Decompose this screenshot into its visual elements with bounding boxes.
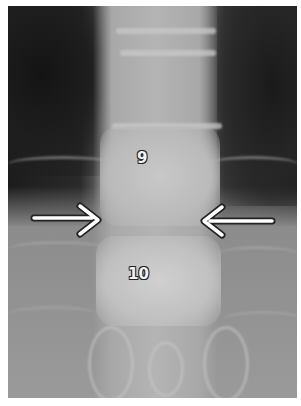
vertebra-label-10: 10 (128, 265, 149, 283)
rib (218, 246, 297, 263)
endplate (116, 28, 216, 34)
endplate (120, 50, 216, 56)
pedicle (88, 326, 134, 398)
spinous-process (148, 341, 184, 397)
rib (223, 311, 297, 328)
rib (8, 241, 108, 258)
arrow-left-icon (198, 203, 276, 239)
rib (208, 156, 297, 173)
vertebra-label-9: 9 (137, 149, 147, 167)
rib (8, 306, 98, 323)
arrow-right-icon (30, 202, 106, 238)
pedicle (203, 326, 249, 398)
right-lung-field (217, 6, 297, 206)
vertebra-10-body (96, 236, 221, 326)
